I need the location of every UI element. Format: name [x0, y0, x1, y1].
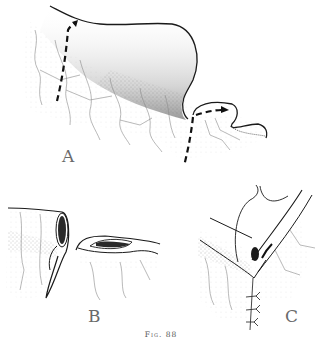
panel-b [6, 208, 160, 300]
panel-a [24, 6, 268, 166]
illustration-canvas [0, 0, 322, 344]
arrowhead-a-right [221, 106, 229, 113]
lumen-c [251, 247, 259, 261]
panel-label-c: C [285, 306, 298, 326]
medical-figure: A B C Fig. 88 [0, 0, 322, 344]
figure-caption: Fig. 88 [0, 330, 322, 339]
mesentery-b [6, 210, 66, 300]
lumen-left-b [58, 216, 66, 244]
panel-label-b: B [88, 306, 101, 326]
needle-c [210, 218, 252, 238]
panel-label-a: A [62, 146, 74, 166]
